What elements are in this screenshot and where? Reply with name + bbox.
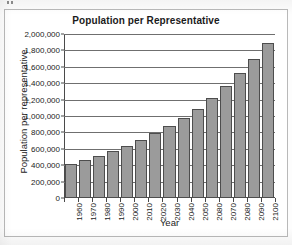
scan-speck-icon bbox=[11, 1, 13, 4]
bar bbox=[121, 146, 133, 198]
scan-speck-icon bbox=[7, 1, 9, 4]
bar bbox=[248, 59, 260, 198]
x-axis-tick-mark bbox=[106, 198, 107, 202]
x-axis-tick-mark bbox=[219, 198, 220, 202]
y-axis-tick-label: 1,000,000 bbox=[24, 112, 60, 121]
y-axis-tick-label: 1,600,000 bbox=[24, 62, 60, 71]
bar bbox=[79, 160, 91, 198]
chart-title: Population per Representative bbox=[5, 15, 287, 26]
bar bbox=[206, 98, 218, 198]
bar bbox=[234, 73, 246, 198]
x-axis-tick-mark bbox=[78, 198, 79, 202]
bar bbox=[93, 156, 105, 198]
y-axis-tick-label: 600,000 bbox=[31, 144, 60, 153]
bars-group bbox=[64, 34, 275, 198]
x-axis-tick-mark bbox=[205, 198, 206, 202]
x-axis-tick-mark bbox=[92, 198, 93, 202]
x-axis-tick-mark bbox=[162, 198, 163, 202]
y-axis-tick-label: 0 bbox=[56, 194, 60, 203]
y-axis-tick-label: 2,000,000 bbox=[24, 30, 60, 39]
bar bbox=[149, 133, 161, 198]
x-axis-tick-mark bbox=[247, 198, 248, 202]
bar bbox=[220, 86, 232, 198]
x-axis-tick-mark bbox=[191, 198, 192, 202]
x-axis-tick-mark bbox=[261, 198, 262, 202]
x-axis-tick-mark bbox=[64, 198, 65, 202]
y-axis-tick-label: 800,000 bbox=[31, 128, 60, 137]
x-axis-tick-mark bbox=[148, 198, 149, 202]
y-axis-tick-label: 1,400,000 bbox=[24, 79, 60, 88]
bar bbox=[262, 43, 274, 198]
scanned-page-background: Population per Representative Population… bbox=[0, 0, 292, 245]
x-axis-tick-mark bbox=[275, 198, 276, 202]
x-axis-tick-mark bbox=[233, 198, 234, 202]
bar bbox=[192, 109, 204, 198]
y-axis-tick-label: 400,000 bbox=[31, 161, 60, 170]
x-axis-tick-mark bbox=[120, 198, 121, 202]
bar bbox=[178, 118, 190, 198]
chart-container: Population per Representative Population… bbox=[4, 9, 288, 237]
plot-area: 0200,000400,000600,000800,0001,000,0001,… bbox=[64, 34, 275, 198]
y-axis-tick-label: 200,000 bbox=[31, 177, 60, 186]
y-axis-tick-label: 1,800,000 bbox=[24, 46, 60, 55]
bar bbox=[65, 164, 77, 198]
bar bbox=[135, 140, 147, 198]
x-axis-tick-mark bbox=[177, 198, 178, 202]
y-axis-tick-label: 1,200,000 bbox=[24, 95, 60, 104]
x-axis-title: Year bbox=[64, 217, 275, 228]
bar bbox=[107, 151, 119, 198]
x-axis-tick-mark bbox=[134, 198, 135, 202]
bar bbox=[163, 126, 175, 198]
